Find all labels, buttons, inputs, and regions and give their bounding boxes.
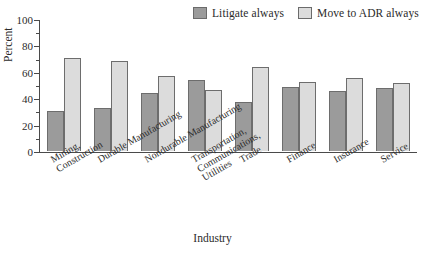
bar-group [40, 20, 87, 151]
y-axis-tick-label: 100 [17, 14, 34, 26]
bar-chart: Litigate always Move to ADR always Perce… [0, 0, 425, 253]
y-axis-minor-tick [36, 60, 39, 61]
y-axis-tick [34, 46, 39, 47]
bar [282, 87, 299, 151]
legend-swatch-icon [298, 7, 312, 19]
bar [376, 88, 393, 151]
bar-group [323, 20, 370, 151]
y-axis-tick [34, 20, 39, 21]
y-axis-title: Percent [2, 28, 14, 62]
legend-item-litigate-always: Litigate always [193, 7, 284, 19]
bar-group [276, 20, 323, 151]
legend-item-label: Litigate always [212, 7, 284, 19]
y-axis-tick [34, 126, 39, 127]
legend-item-label: Move to ADR always [317, 7, 419, 19]
y-axis-tick-label: 20 [22, 120, 33, 132]
y-axis-tick-label: 0 [28, 146, 34, 158]
y-axis-minor-tick [36, 33, 39, 34]
y-axis-tick-label: 80 [22, 40, 33, 52]
y-axis-minor-tick [36, 139, 39, 140]
y-axis-tick [34, 152, 39, 153]
x-axis-category-labels: Mining,ConstructionDurable Manufacturing… [40, 154, 418, 230]
y-axis-tick [34, 73, 39, 74]
y-axis-tick [34, 99, 39, 100]
legend-swatch-icon [193, 7, 207, 19]
y-axis-tick-label: 40 [22, 93, 33, 105]
y-axis-minor-tick [36, 112, 39, 113]
bar-group [370, 20, 417, 151]
y-axis-tick-label: 60 [22, 67, 33, 79]
y-axis-minor-tick [36, 86, 39, 87]
bar [64, 58, 81, 151]
chart-legend: Litigate always Move to ADR always [193, 7, 419, 19]
bar [329, 91, 346, 151]
x-axis-title: Industry [0, 232, 425, 244]
bar [47, 111, 64, 151]
legend-item-move-to-adr-always: Move to ADR always [298, 7, 419, 19]
